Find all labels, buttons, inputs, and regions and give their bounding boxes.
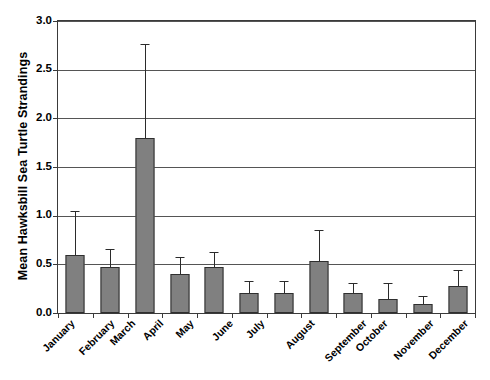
bar [205, 267, 224, 313]
x-axis-tick-labels: JanuaryFebruaryMarchAprilMayJuneJulyAugu… [57, 313, 474, 380]
y-tick-label: 3.0 [18, 15, 52, 26]
error-bar-cap [245, 281, 254, 282]
bar-slot [371, 21, 406, 313]
y-tick-label: 0.5 [18, 258, 52, 269]
bar-slot [301, 21, 336, 313]
error-bar [353, 284, 354, 293]
error-bar [214, 253, 215, 268]
bar-slot [93, 21, 128, 313]
error-bar [180, 258, 181, 275]
bar-slot [336, 21, 371, 313]
y-axis-tick-labels: 0.00.51.01.52.02.53.0 [0, 0, 52, 380]
bar [274, 293, 293, 313]
bar-slot [128, 21, 163, 313]
y-tick-label: 2.0 [18, 112, 52, 123]
x-tick-label: April [140, 317, 165, 342]
bar [309, 261, 328, 313]
error-bar-cap [349, 283, 358, 284]
error-bar-cap [71, 211, 80, 212]
bar [240, 293, 259, 313]
bar [101, 267, 120, 313]
error-bar-cap [106, 249, 115, 250]
bar [448, 286, 467, 313]
error-bar-cap [279, 281, 288, 282]
error-bar-cap [210, 252, 219, 253]
bar [413, 304, 432, 313]
y-tick-label: 1.5 [18, 161, 52, 172]
x-tick-mark [475, 313, 476, 318]
error-bar [75, 212, 76, 255]
error-bar [319, 231, 320, 261]
error-bar [249, 282, 250, 293]
bar-series [58, 21, 475, 313]
y-tick-label: 0.0 [18, 307, 52, 318]
bar-slot [58, 21, 93, 313]
error-bar-cap [453, 270, 462, 271]
error-bar [284, 282, 285, 293]
bar-slot [440, 21, 475, 313]
bar-slot [232, 21, 267, 313]
x-tick-label: August [282, 317, 316, 351]
y-tick-label: 1.0 [18, 209, 52, 220]
error-bar-cap [314, 230, 323, 231]
error-bar [145, 45, 146, 137]
bar-slot [267, 21, 302, 313]
error-bar [110, 250, 111, 268]
bar [66, 255, 85, 313]
bar [135, 138, 154, 313]
error-bar [423, 297, 424, 304]
bar-slot [197, 21, 232, 313]
error-bar-cap [418, 296, 427, 297]
x-tick-label: July [243, 317, 266, 340]
bar-slot [162, 21, 197, 313]
x-tick-label: June [209, 317, 235, 343]
y-tick-label: 2.5 [18, 63, 52, 74]
error-bar-cap [175, 257, 184, 258]
plot-area [57, 20, 476, 314]
bar-slot [406, 21, 441, 313]
x-tick-label: May [173, 317, 196, 340]
chart-figure: Mean Hawksbill Sea Turtle Strandings 0.0… [0, 0, 490, 380]
bar [379, 299, 398, 313]
bar [344, 293, 363, 313]
error-bar-cap [140, 44, 149, 45]
error-bar [458, 271, 459, 286]
bar [170, 274, 189, 313]
error-bar-cap [384, 283, 393, 284]
error-bar [388, 284, 389, 300]
